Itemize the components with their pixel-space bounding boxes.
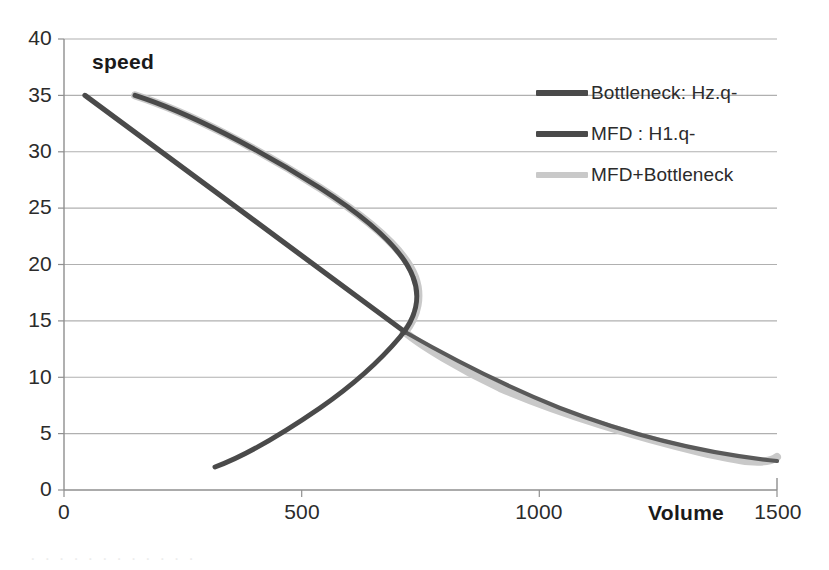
y-tick-label-40: 40 xyxy=(16,27,52,48)
x-tick-label-1500: 1500 xyxy=(742,501,814,522)
y-tick-label-5: 5 xyxy=(16,422,52,443)
x-tick-label-1000: 1000 xyxy=(503,501,575,522)
y-tick-label-0: 0 xyxy=(16,478,52,499)
y-tick-label-35: 35 xyxy=(16,84,52,105)
series-bottleneck-hzq xyxy=(135,95,417,467)
chart-legend: Bottleneck: Hz.q- MFD : H1.q- MFD+Bottle… xyxy=(536,72,826,195)
legend-swatch-line-icon xyxy=(536,131,588,137)
legend-item-mfd-plus-bottleneck[interactable]: MFD+Bottleneck xyxy=(536,154,826,195)
x-axis-ticks xyxy=(64,490,777,497)
y-tick-label-30: 30 xyxy=(16,140,52,161)
scan-artifact-row: · · · · · · · · · · · · xyxy=(0,549,829,570)
legend-label-mfd: MFD : H1.q- xyxy=(591,123,696,145)
legend-label-bottleneck: Bottleneck: Hz.q- xyxy=(591,82,737,104)
legend-label-mfd-plus-bottleneck: MFD+Bottleneck xyxy=(591,164,733,186)
legend-swatch-line-icon xyxy=(536,90,588,96)
legend-item-bottleneck[interactable]: Bottleneck: Hz.q- xyxy=(536,72,826,113)
y-tick-label-15: 15 xyxy=(16,309,52,330)
series-mfd-h1q-tail xyxy=(405,332,777,461)
y-tick-label-20: 20 xyxy=(16,253,52,274)
legend-swatch-line-icon xyxy=(536,172,588,178)
y-tick-label-10: 10 xyxy=(16,366,52,387)
x-axis-title: Volume xyxy=(648,501,724,525)
y-axis-ticks xyxy=(58,39,64,490)
y-axis-title: speed xyxy=(92,50,154,74)
x-tick-label-0: 0 xyxy=(44,501,84,522)
legend-item-mfd[interactable]: MFD : H1.q- xyxy=(536,113,826,154)
y-tick-label-25: 25 xyxy=(16,196,52,217)
x-tick-label-500: 500 xyxy=(272,501,332,522)
chart-container: 40 35 30 25 20 15 10 5 0 0 500 1000 1500… xyxy=(0,0,829,570)
